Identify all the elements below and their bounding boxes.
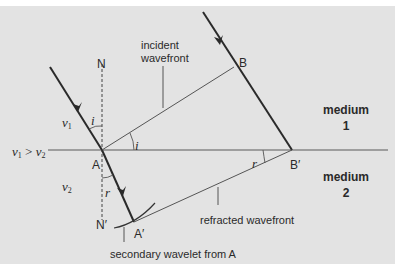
- label-a-prime: A′: [134, 228, 144, 240]
- compare-operator: >: [22, 144, 36, 159]
- medium1-line1: medium: [318, 104, 374, 116]
- medium2-line2: 2: [318, 187, 374, 199]
- label-medium-2: medium 2: [318, 171, 374, 199]
- label-refracted-wavefront: refracted wavefront: [200, 215, 294, 226]
- label-b: B: [239, 57, 247, 69]
- v1-subscript: 1: [68, 122, 72, 131]
- v2-subscript: 2: [68, 186, 72, 195]
- medium1-line2: 1: [318, 120, 374, 132]
- incident-ray-b: [203, 12, 292, 150]
- incident-wavefront: [102, 67, 234, 150]
- angle-label-i-wavefront: i: [135, 139, 139, 152]
- label-secondary-wavelet: secondary wavelet from A: [110, 249, 236, 260]
- refraction-diagram: N N′ A A′ B B′ i i r r v1 v2 v1 > v2 inc…: [0, 6, 395, 264]
- label-v1: v1: [62, 116, 72, 131]
- label-n-prime: N′: [96, 219, 107, 231]
- angle-label-i-top: i: [91, 114, 95, 127]
- label-n: N: [97, 58, 106, 70]
- label-medium-1: medium 1: [318, 104, 374, 132]
- label-incident-wavefront: incident wavefront: [141, 40, 189, 64]
- incident-wavefront-line1: incident: [141, 40, 189, 51]
- angle-label-r-ray: r: [105, 186, 110, 199]
- angle-arc-r-ray: [102, 175, 113, 178]
- medium2-line1: medium: [318, 171, 374, 183]
- label-b-prime: B′: [290, 159, 300, 171]
- diagram-lines: [0, 6, 395, 264]
- compare-b-subscript: 2: [41, 151, 45, 160]
- incident-wavefront-line2: wavefront: [141, 53, 189, 64]
- label-a: A: [92, 159, 100, 171]
- angle-label-r-wavefront: r: [252, 157, 257, 170]
- refracted-wavefront: [134, 150, 292, 222]
- angle-arc-r-wavefront: [263, 150, 265, 163]
- label-v1-greater-v2: v1 > v2: [12, 145, 45, 160]
- angle-arc-i-wavefront: [130, 133, 134, 150]
- label-v2: v2: [62, 180, 72, 195]
